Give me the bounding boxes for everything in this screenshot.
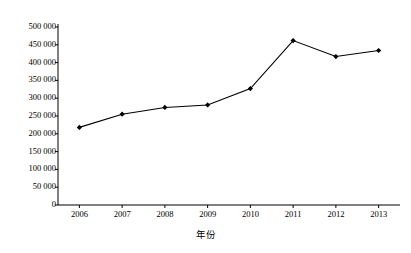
data-point-marker	[333, 54, 338, 59]
x-axis-tick-label: 2006	[59, 209, 99, 219]
data-point-marker	[162, 105, 167, 110]
line-chart: 废气排放量（亿标准立方米） 050 000100 000150 000200 0…	[0, 0, 411, 253]
x-axis-tick-label: 2009	[188, 209, 228, 219]
axes	[58, 24, 400, 205]
x-axis-tick-label: 2007	[102, 209, 142, 219]
data-point-marker	[376, 48, 381, 53]
x-axis-tick-label: 2012	[316, 209, 356, 219]
x-axis-title: 年份	[0, 228, 411, 242]
x-axis-tick-label: 2013	[359, 209, 399, 219]
x-axis-tick-label: 2011	[273, 209, 313, 219]
data-point-marker	[77, 125, 82, 130]
data-point-marker	[205, 102, 210, 107]
series-markers	[77, 38, 381, 130]
x-axis-tick-label: 2010	[230, 209, 270, 219]
data-point-marker	[120, 112, 125, 117]
x-axis-tick-label: 2008	[145, 209, 185, 219]
